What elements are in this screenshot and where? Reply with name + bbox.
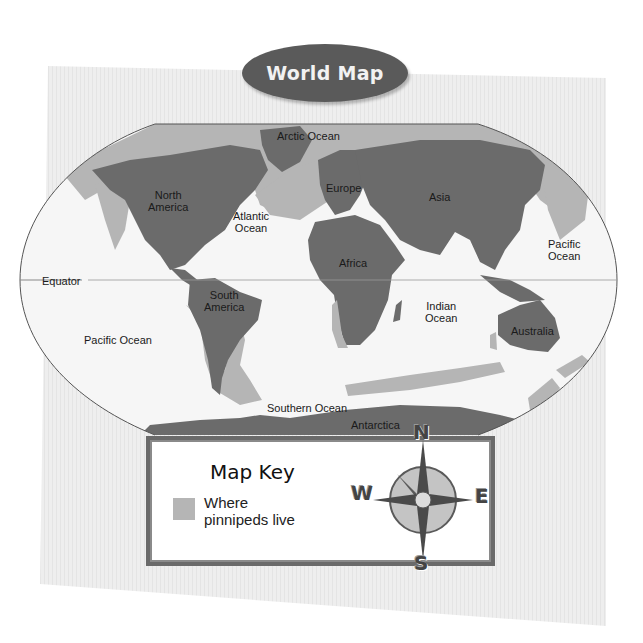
compass-west-label: W: [351, 487, 373, 499]
compass-north-label: N: [413, 426, 430, 438]
world-map-page: World Map Arctic Ocean NorthAmerica Atla…: [0, 0, 643, 643]
compass-east-label: E: [475, 490, 489, 502]
title-banner: World Map: [242, 44, 408, 102]
page-title: World Map: [266, 62, 383, 84]
compass-south-label: S: [414, 557, 428, 569]
